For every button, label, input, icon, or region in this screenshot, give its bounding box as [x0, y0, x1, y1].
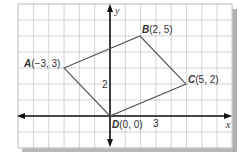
svg-text:A(−3, 3): A(−3, 3) — [23, 58, 60, 69]
point-name-b: B — [142, 24, 149, 35]
y-axis-label: y — [114, 5, 120, 16]
x-tick-label-3: 3 — [153, 118, 159, 129]
svg-text:C(5, 2): C(5, 2) — [188, 74, 219, 85]
point-label-b: B(2, 5) — [142, 24, 173, 35]
point-coords-b: (2, 5) — [149, 24, 172, 35]
point-label-c: C(5, 2) — [188, 74, 219, 85]
point-coords-d: (0, 0) — [119, 119, 142, 130]
point-label-d: D(0, 0) — [112, 119, 143, 130]
point-name-a: A — [23, 58, 31, 69]
x-axis-label: x — [225, 119, 231, 130]
point-coords-a: (−3, 3) — [31, 58, 60, 69]
svg-text:D(0, 0): D(0, 0) — [112, 119, 143, 130]
coordinate-plane: y x 2 3 A(−3, 3) B(2, 5) C(5, 2) D(0, 0) — [0, 0, 250, 164]
point-name-d: D — [112, 119, 119, 130]
point-coords-c: (5, 2) — [195, 74, 218, 85]
point-label-a: A(−3, 3) — [23, 58, 60, 69]
y-tick-label-2: 2 — [102, 79, 108, 90]
svg-text:B(2, 5): B(2, 5) — [142, 24, 173, 35]
grid-shadow-bottom — [22, 148, 237, 152]
